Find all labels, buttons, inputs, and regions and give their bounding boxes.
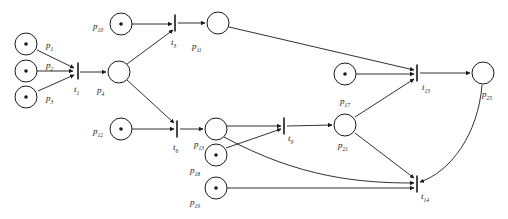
place-label-p11: p11 — [191, 41, 202, 53]
place-label-p13: p13 — [193, 139, 204, 151]
place-p25 — [472, 62, 494, 84]
token-p18 — [214, 153, 218, 157]
arc-p18-to-t9 — [226, 129, 281, 148]
token-p12 — [119, 127, 123, 131]
arc-p21-to-t14 — [355, 133, 414, 178]
transition-label-t14: t14 — [421, 191, 429, 203]
arc-p3-to-t1 — [38, 75, 74, 91]
arcs-layer — [37, 23, 482, 188]
arc-p13-to-t14 — [224, 137, 414, 183]
place-label-p17: p17 — [339, 96, 350, 108]
token-p17 — [343, 72, 347, 76]
arc-p1-to-t1 — [37, 50, 74, 68]
transition-label-t3: t3 — [171, 37, 177, 49]
places-layer — [15, 12, 494, 199]
place-label-p2: p2 — [45, 60, 54, 72]
transition-label-t6: t6 — [173, 142, 179, 154]
place-label-p1: p1 — [45, 40, 54, 52]
token-p19 — [214, 186, 218, 190]
arc-t9-to-p21 — [287, 125, 332, 126]
petri-net-diagram: t1t3t6t9t13t14p1p2p3p4p10p11p12p13p17p18… — [0, 0, 508, 219]
arc-p11-to-t13 — [229, 27, 414, 70]
arc-p4-to-t6 — [127, 80, 174, 123]
place-label-p19: p19 — [189, 197, 200, 209]
arc-p4-to-t3 — [127, 30, 173, 64]
place-p4 — [108, 61, 130, 83]
place-label-p4: p4 — [96, 85, 105, 97]
place-label-p21: p21 — [337, 140, 348, 152]
transition-label-t13: t13 — [422, 82, 430, 94]
transition-label-t9: t9 — [288, 133, 294, 145]
arc-p21-to-t13 — [355, 79, 414, 117]
place-p13 — [205, 118, 227, 140]
transition-label-t1: t1 — [74, 84, 80, 96]
token-p1 — [24, 42, 28, 46]
place-label-p10: p10 — [92, 21, 103, 33]
place-label-p18: p18 — [189, 165, 200, 177]
transitions-layer — [78, 15, 417, 193]
place-label-p25: p25 — [481, 89, 492, 101]
place-p11 — [207, 12, 229, 34]
token-p10 — [119, 22, 123, 26]
place-label-p12: p12 — [92, 126, 103, 138]
place-p21 — [334, 114, 356, 136]
token-p3 — [24, 95, 28, 99]
token-p2 — [24, 69, 28, 73]
place-label-p3: p3 — [45, 93, 54, 105]
arc-p25-to-t14 — [420, 85, 482, 182]
